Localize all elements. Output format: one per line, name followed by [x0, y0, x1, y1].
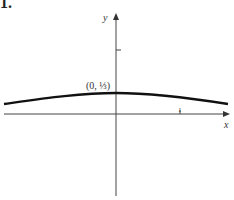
y-axis-label: y: [102, 12, 108, 23]
x-tick-label-1: 1: [178, 106, 182, 114]
x-axis-arrow-icon: [223, 111, 230, 117]
y-axis-arrow-icon: [113, 13, 119, 20]
chart: y x 1 (0, ⅓): [0, 0, 234, 200]
point-label: (0, ⅓): [86, 80, 110, 92]
x-axis-label: x: [223, 119, 229, 130]
